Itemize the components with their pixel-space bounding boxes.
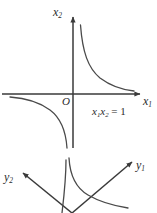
hyperbola-figure: x2 x1 O x1x2 = 1 y1 y2	[0, 0, 157, 213]
axis-label-y1: y1	[136, 159, 145, 173]
figure-canvas	[0, 0, 157, 213]
hyperbola-branch-quadrant-3	[10, 97, 67, 148]
equation-label: x1x2 = 1	[92, 106, 126, 119]
axis-label-x2: x2	[53, 6, 62, 20]
axis-label-x1: x1	[143, 95, 152, 109]
axis-label-y2: y2	[4, 171, 13, 185]
y1-axis-line	[72, 162, 132, 213]
lower-hyperbola-branch-upper	[69, 158, 128, 208]
upper-coordinate-system	[2, 17, 140, 148]
origin-label: O	[62, 96, 70, 107]
hyperbola-branch-quadrant-1	[81, 25, 135, 91]
lower-hyperbola-branch-lower	[62, 160, 66, 213]
lower-coordinate-system	[23, 158, 132, 213]
